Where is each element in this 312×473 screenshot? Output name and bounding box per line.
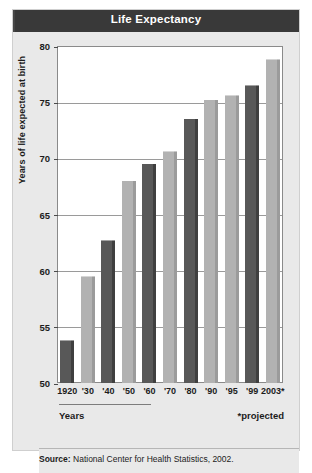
chart-panel: Years of life expected at birth 50556065… [26, 44, 286, 434]
x-axis-tick-label: '70 [164, 386, 176, 396]
bar-90 [204, 98, 218, 383]
y-axis-tick-label: 50 [24, 378, 50, 389]
y-axis-tick-label: 80 [24, 41, 50, 52]
source-label: Source: [39, 454, 71, 464]
bar-top-highlight [245, 83, 259, 86]
bar-top-highlight [163, 149, 177, 152]
x-axis-tick-label: 2003* [261, 386, 285, 396]
chart-card: Life Expectancy Years of life expected a… [13, 10, 299, 450]
bar-top-highlight [184, 117, 198, 120]
y-axis-tick-label: 75 [24, 97, 50, 108]
bar-95 [225, 93, 239, 383]
projected-footnote: *projected [238, 410, 284, 421]
bar-2003 [266, 57, 280, 383]
bar-top-highlight [266, 57, 280, 60]
bar-body [81, 276, 95, 383]
bars-group [57, 46, 283, 383]
bar-body [163, 151, 177, 383]
bar-40 [101, 238, 115, 383]
bar-50 [122, 179, 136, 383]
y-axis-tick-label: 55 [24, 322, 50, 333]
x-axis-tick-label: '80 [184, 386, 196, 396]
y-axis-tick-label: 65 [24, 210, 50, 221]
x-axis-tick-label: '40 [102, 386, 114, 396]
x-axis-tick-label: '95 [226, 386, 238, 396]
bar-body [101, 240, 115, 383]
bar-body [142, 164, 156, 383]
source-value: National Center for Health Statistics, 2… [73, 454, 234, 464]
chart-title-bar: Life Expectancy [13, 10, 299, 32]
bar-body [60, 340, 74, 383]
bar-body [266, 59, 280, 383]
bar-top-highlight [142, 162, 156, 165]
x-axis-labels: 1920'30'40'50'60'70'80'90'95'992003* [57, 386, 283, 400]
bar-99 [245, 83, 259, 383]
bar-top-highlight [204, 98, 218, 101]
bar-80 [184, 117, 198, 383]
bar-1920 [60, 338, 74, 383]
source-box: Source: National Center for Health Stati… [39, 448, 299, 473]
y-axis-tick-label: 60 [24, 266, 50, 277]
x-axis-tick-label: '90 [205, 386, 217, 396]
x-axis-tick-label: '30 [82, 386, 94, 396]
bar-top-highlight [225, 93, 239, 96]
bar-60 [142, 162, 156, 383]
bar-30 [81, 274, 95, 383]
y-axis-tick-mark [54, 384, 58, 385]
source-text: Source: National Center for Health Stati… [39, 454, 234, 464]
x-axis-tick-label: '99 [246, 386, 258, 396]
x-axis-tick-label: 1920 [57, 386, 77, 396]
bar-body [122, 181, 136, 383]
bar-body [184, 119, 198, 383]
x-axis-tick-label: '50 [123, 386, 135, 396]
bar-body [225, 95, 239, 383]
bar-top-highlight [122, 179, 136, 182]
bar-top-highlight [101, 238, 115, 241]
bar-top-highlight [60, 338, 74, 341]
bar-70 [163, 149, 177, 383]
x-axis-rule [59, 404, 151, 405]
page-title: Life Expectancy [13, 13, 299, 25]
bar-top-highlight [81, 274, 95, 277]
bar-body [204, 100, 218, 383]
y-axis-tick-label: 70 [24, 153, 50, 164]
x-axis-tick-label: '60 [143, 386, 155, 396]
x-axis-title: Years [59, 410, 84, 421]
bar-body [245, 85, 259, 383]
